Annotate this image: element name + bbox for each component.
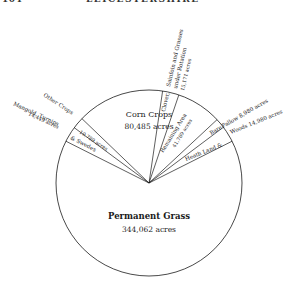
label-other-crops: Other Crops bbox=[42, 92, 75, 117]
label-heath-woods: Woods 14,980 acres bbox=[229, 108, 283, 135]
label-permanent-grass: Permanent Grass bbox=[108, 211, 190, 221]
value-corn-crops: 80,485 acres bbox=[124, 122, 173, 131]
value-permanent-grass: 344,062 acres bbox=[122, 225, 176, 234]
pie-chart: Permanent Grass 344,062 acres Corn Crops… bbox=[0, 0, 302, 281]
